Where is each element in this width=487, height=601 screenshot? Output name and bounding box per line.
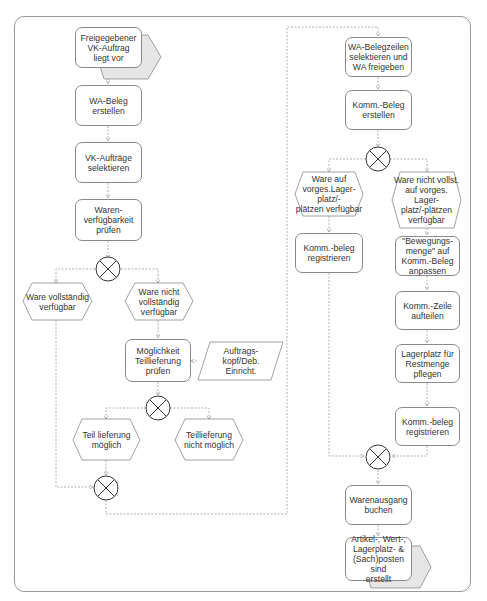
event-teillieferung-nicht-moeglich: Teillieferung nicht möglich bbox=[175, 419, 243, 460]
function-label: Lagerplatz für Restmenge pflegen bbox=[401, 349, 454, 379]
epc-diagram: Freigegebener VK-Auftrag liegt vor WA-Be… bbox=[0, 0, 487, 601]
event-ware-nicht-vollstaendig-verfuegbar: Ware nicht vollständig verfügbar bbox=[125, 283, 193, 320]
function-label: "Bewegungs- menge" auf Komm.-Beleg anpas… bbox=[401, 236, 453, 276]
xor2-icon bbox=[146, 396, 170, 420]
function-warenverfuegbarkeit-pruefen: Waren- verfügbarkeit prüfen bbox=[75, 199, 142, 241]
xor5-icon bbox=[366, 445, 390, 469]
function-bewegungsmenge-anpassen: "Bewegungs- menge" auf Komm.-Beleg anpas… bbox=[395, 236, 460, 276]
function-label: WA-Beleg erstellen bbox=[89, 96, 127, 116]
function-wa-beleg-erstellen: WA-Beleg erstellen bbox=[75, 85, 142, 126]
end-event: Artikel-, Wert-, Lagerplatz- & (Sach)pos… bbox=[345, 537, 412, 581]
function-label: Komm.-Zeile aufteilen bbox=[403, 301, 452, 321]
event-ware-nicht-auf-lagerplatz-verfuegbar: Ware nicht vollst. auf vorges. Lager- pl… bbox=[392, 172, 461, 228]
event-ware-vollstaendig-verfuegbar: Ware vollständig verfügbar bbox=[23, 283, 92, 320]
function-label: VK-Aufträge selektieren bbox=[85, 153, 132, 173]
event-label: Teillieferung nicht möglich bbox=[184, 430, 234, 450]
start-event: Freigegebener VK-Auftrag liegt vor bbox=[75, 27, 142, 68]
event-label: Ware nicht vollst. auf vorges. Lager- pl… bbox=[392, 175, 461, 225]
info-object-auftragskopf: Auftrags- kopf/Deb. Einricht. bbox=[205, 342, 277, 380]
event-ware-auf-lagerplatz-verfuegbar: Ware auf vorges.Lager-platz/- plätzen ve… bbox=[295, 172, 363, 216]
event-teillieferung-moeglich: Teil lieferung möglich bbox=[73, 419, 140, 460]
function-label: Möglichkeit Teillieferung prüfen bbox=[126, 346, 190, 376]
function-label: Komm.-beleg registrieren bbox=[402, 417, 453, 437]
event-label: Ware nicht vollständig verfügbar bbox=[139, 287, 180, 317]
event-label: Ware vollständig verfügbar bbox=[26, 292, 89, 312]
event-label: Teil lieferung möglich bbox=[82, 430, 130, 450]
function-label: Komm.-Beleg erstellen bbox=[352, 100, 404, 120]
function-komm-zeile-aufteilen: Komm.-Zeile aufteilen bbox=[395, 291, 460, 330]
xor4-icon bbox=[366, 147, 390, 171]
function-wa-belegzeilen-selektieren: WA-Belegzeilen selektieren und WA freige… bbox=[345, 37, 412, 77]
event-label: Ware auf vorges.Lager-platz/- plätzen ve… bbox=[295, 174, 363, 214]
function-label: Komm.-beleg registrieren bbox=[303, 243, 354, 263]
function-warenausgang-buchen: Warenausgang buchen bbox=[345, 485, 412, 525]
xor3-icon bbox=[94, 476, 118, 500]
function-komm-beleg-registrieren-2: Komm.-beleg registrieren bbox=[395, 407, 460, 446]
xor1-icon bbox=[96, 257, 120, 281]
function-teillieferung-pruefen: Möglichkeit Teillieferung prüfen bbox=[125, 339, 191, 382]
function-label: Waren- verfügbarkeit prüfen bbox=[84, 205, 134, 235]
function-vk-auftraege-selektieren: VK-Aufträge selektieren bbox=[75, 142, 142, 183]
function-lagerplatz-pflegen: Lagerplatz für Restmenge pflegen bbox=[395, 344, 460, 383]
function-label: WA-Belegzeilen selektieren und WA freige… bbox=[348, 42, 409, 72]
function-label: Warenausgang buchen bbox=[350, 495, 408, 515]
function-komm-beleg-erstellen: Komm.-Beleg erstellen bbox=[345, 90, 412, 130]
function-komm-beleg-registrieren-1: Komm.-beleg registrieren bbox=[295, 233, 363, 273]
info-object-label: Auftrags- kopf/Deb. Einricht. bbox=[223, 346, 260, 376]
start-event-label: Freigegebener VK-Auftrag liegt vor bbox=[81, 33, 137, 63]
end-event-label: Artikel-, Wert-, Lagerplatz- & (Sach)pos… bbox=[346, 534, 411, 584]
